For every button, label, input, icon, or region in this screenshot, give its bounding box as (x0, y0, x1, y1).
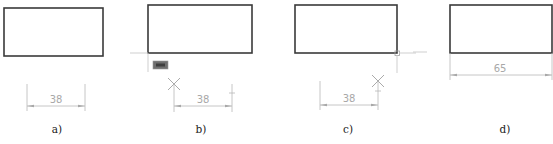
rectangle-b (148, 5, 252, 53)
arrowhead-left-d (450, 74, 457, 76)
panel-label-c: c) (343, 123, 353, 135)
arrowhead-right-b (225, 105, 232, 107)
cad-dimension-diagram: 38 a) 38 b) (0, 0, 553, 144)
arrowhead-left-b (174, 105, 181, 107)
arrowhead-right-c (371, 104, 378, 106)
rectangle-a (4, 8, 103, 56)
dimension-text-b: 38 (197, 94, 210, 105)
arrowhead-right-a (78, 105, 85, 107)
arrowhead-left-c (320, 104, 327, 106)
arrowhead-left-a (27, 105, 34, 107)
snap-tooltip-text-b (156, 64, 165, 67)
rectangle-d (450, 5, 552, 53)
panel-label-a: a) (52, 123, 62, 135)
panel-b: 38 b) (130, 5, 252, 135)
panel-d: 65 d) (413, 5, 552, 135)
panel-c: 38 c) (295, 5, 416, 135)
arrowhead-right-d (545, 74, 552, 76)
panel-a: 38 a) (4, 8, 103, 135)
panel-label-d: d) (500, 123, 511, 135)
dimension-text-c: 38 (343, 93, 356, 104)
rectangle-c (295, 5, 397, 53)
panel-label-b: b) (196, 123, 207, 135)
dimension-text-d: 65 (494, 63, 507, 74)
dimension-text-a: 38 (50, 94, 63, 105)
